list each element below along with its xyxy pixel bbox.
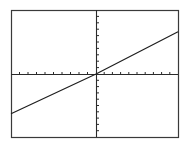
- graph-plot: [0, 0, 182, 147]
- axis-ticks: [20, 16, 170, 130]
